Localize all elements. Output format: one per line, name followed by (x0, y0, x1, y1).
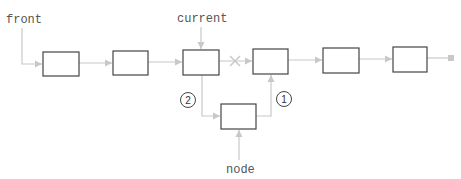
current-label: current (177, 12, 227, 26)
step-2-number: 2 (185, 95, 191, 106)
front-pointer-arrow (22, 28, 42, 64)
node-label: node (226, 163, 255, 177)
list-node-5 (323, 48, 359, 73)
step-1-badge: 1 (277, 92, 292, 107)
step-2-badge: 2 (181, 93, 196, 108)
list-node-6 (393, 47, 427, 72)
link-current-to-new-node (202, 75, 220, 116)
list-node-2 (113, 51, 148, 75)
step-1-number: 1 (281, 94, 287, 105)
list-node-4 (253, 49, 288, 74)
list-end-marker (448, 55, 454, 61)
list-node-1 (43, 52, 79, 76)
new-node-box (221, 104, 256, 129)
list-node-current (183, 50, 219, 75)
link-new-node-to-n4 (256, 75, 271, 116)
front-label: front (6, 13, 42, 27)
linked-list-diagram: front current node 2 1 (0, 0, 461, 179)
